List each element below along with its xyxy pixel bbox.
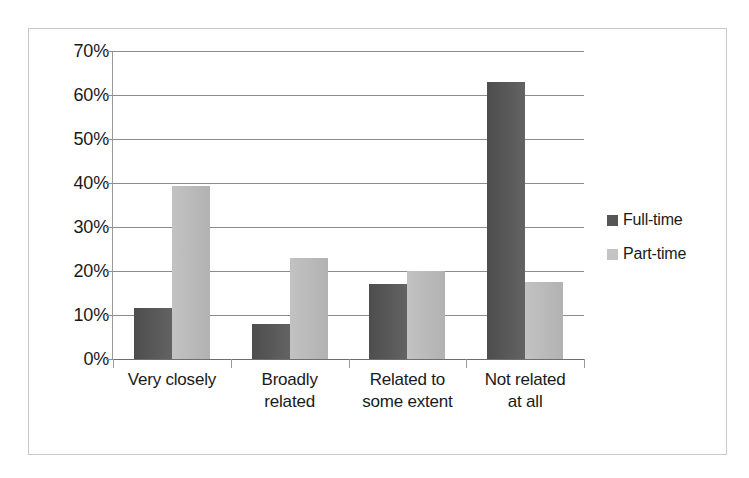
category-label: Broadlyrelated — [231, 369, 349, 413]
category-label: Very closely — [113, 369, 231, 413]
y-axis-tick-label: 20% — [37, 262, 109, 280]
y-axis-tick-mark — [106, 51, 113, 52]
category-axis-labels: Very closelyBroadlyrelatedRelated tosome… — [113, 369, 584, 413]
bar-part-time[interactable] — [290, 258, 328, 359]
bar-part-time[interactable] — [525, 282, 563, 359]
legend-item-label: Part-time — [623, 245, 686, 263]
bar-part-time[interactable] — [172, 186, 210, 359]
legend-item-label: Full-time — [623, 211, 683, 229]
y-axis-tick-label: 40% — [37, 174, 109, 192]
legend-swatch-icon — [607, 249, 618, 260]
y-axis-tick-mark — [106, 359, 113, 360]
category-tick — [349, 359, 350, 368]
y-axis-tick-label: 0% — [37, 350, 109, 368]
category-label-line: related — [231, 391, 349, 413]
category-label: Related tosome extent — [349, 369, 467, 413]
bar-full-time[interactable] — [369, 284, 407, 359]
category-label-line: Very closely — [113, 369, 231, 391]
y-axis-tick-label: 30% — [37, 218, 109, 236]
chart-plot-wrapper: 70%60%50%40%30%20%10%0% Very closelyBroa… — [29, 29, 726, 454]
category-tick — [466, 359, 467, 368]
y-axis-tick-mark — [106, 183, 113, 184]
y-axis-tick-label: 10% — [37, 306, 109, 324]
plot-area — [113, 51, 584, 359]
bar-group — [466, 51, 584, 359]
y-axis-tick-mark — [106, 271, 113, 272]
category-tick — [113, 359, 114, 368]
bar-part-time[interactable] — [407, 271, 445, 359]
y-axis-tick-label: 60% — [37, 86, 109, 104]
category-label-line: some extent — [349, 391, 467, 413]
category-label-line: Related to — [349, 369, 467, 391]
y-axis-tick-label: 70% — [37, 42, 109, 60]
chart-legend: Full-timePart-time — [607, 211, 725, 279]
chart-frame: 70%60%50%40%30%20%10%0% Very closelyBroa… — [28, 28, 727, 455]
category-label-line: Broadly — [231, 369, 349, 391]
bar-group — [231, 51, 349, 359]
bar-groups — [113, 51, 584, 359]
legend-item[interactable]: Full-time — [607, 211, 725, 229]
y-axis-tick-mark — [106, 315, 113, 316]
y-axis-tick-mark — [106, 95, 113, 96]
legend-swatch-icon — [607, 215, 618, 226]
y-axis-tick-mark — [106, 227, 113, 228]
legend-item[interactable]: Part-time — [607, 245, 725, 263]
category-label-line: at all — [466, 391, 584, 413]
bar-full-time[interactable] — [487, 82, 525, 359]
category-label: Not relatedat all — [466, 369, 584, 413]
y-axis-tick-label: 50% — [37, 130, 109, 148]
bar-full-time[interactable] — [134, 308, 172, 359]
category-tick — [231, 359, 232, 368]
bar-full-time[interactable] — [252, 324, 290, 359]
category-tick — [584, 359, 585, 368]
category-label-line: Not related — [466, 369, 584, 391]
y-axis-tick-labels: 70%60%50%40%30%20%10%0% — [37, 43, 109, 359]
bar-group — [113, 51, 231, 359]
y-axis-tick-mark — [106, 139, 113, 140]
bar-group — [349, 51, 467, 359]
category-axis-ticks — [113, 359, 584, 368]
